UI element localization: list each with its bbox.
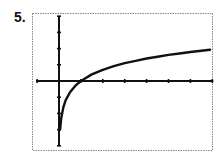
- function-curve: [60, 50, 210, 130]
- graph-screen: [0, 0, 221, 163]
